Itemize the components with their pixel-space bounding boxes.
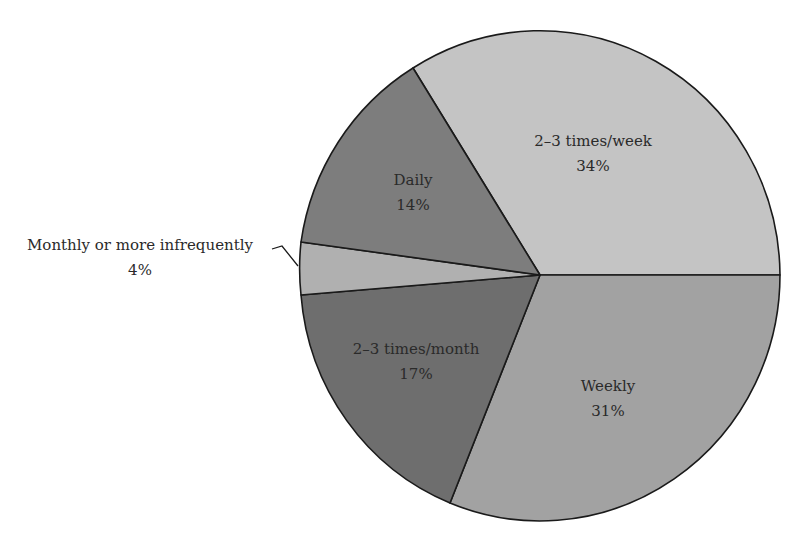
label-daily: Daily (393, 171, 433, 189)
label-2-3-times-week: 2–3 times/week (534, 132, 653, 150)
label-2-3-times-month: 2–3 times/month (353, 340, 480, 358)
label-weekly: Weekly (581, 377, 636, 395)
pct-2-3-times-week: 34% (576, 157, 609, 175)
label-monthly-or-more-infrequently: Monthly or more infrequently (27, 236, 254, 254)
leader-line (272, 246, 298, 266)
pct-2-3-times-month: 17% (399, 365, 432, 383)
pct-daily: 14% (396, 196, 429, 214)
pct-weekly: 31% (591, 402, 624, 420)
pie-chart: 2–3 times/week 34% Weekly 31% 2–3 times/… (0, 0, 800, 544)
pct-monthly-or-more-infrequently: 4% (128, 261, 152, 279)
